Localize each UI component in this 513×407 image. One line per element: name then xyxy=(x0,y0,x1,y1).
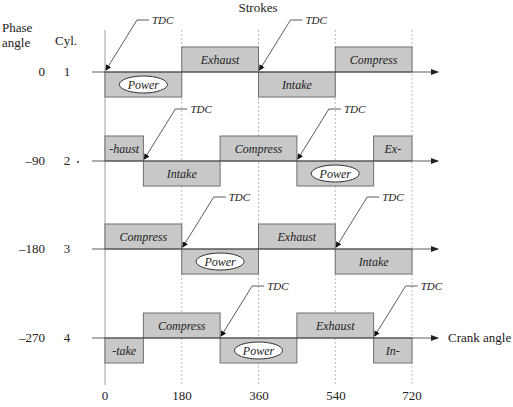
phase-angle-value: –180 xyxy=(18,241,45,256)
tdc-label: TDC xyxy=(421,280,443,292)
tdc-pointer xyxy=(144,109,187,159)
tdc-pointer xyxy=(375,286,418,336)
stroke-label: -haust xyxy=(109,142,140,156)
stroke-label: Intake xyxy=(166,167,198,181)
chart-title: Strokes xyxy=(239,0,278,15)
phase-angle-value: –90 xyxy=(25,153,46,168)
stroke-label: Power xyxy=(319,167,352,181)
stroke-label: Power xyxy=(203,255,236,269)
stroke-label: Compress xyxy=(158,319,206,333)
tdc-label: TDC xyxy=(152,14,174,26)
phase-angle-header-line1: Phase xyxy=(2,20,33,35)
four-cylinder-stroke-diagram: Strokes Phase angle Cyl. 01PowerExhaustI… xyxy=(0,0,513,407)
cylinder-number: 2 xyxy=(64,153,71,168)
cylinder-header: Cyl. xyxy=(55,33,77,48)
stroke-label: In- xyxy=(385,344,400,358)
tdc-label: TDC xyxy=(267,280,289,292)
cylinder-number: 1 xyxy=(64,64,71,79)
tdc-label: TDC xyxy=(344,103,366,115)
cylinder-row-4: –2704-takeCompressPowerExhaustIn-TDCTDC xyxy=(18,280,443,363)
dot-mark xyxy=(77,161,79,163)
stroke-label: Exhaust xyxy=(277,230,317,244)
phase-angle-header-line2: angle xyxy=(2,35,30,50)
tick-label-180: 180 xyxy=(172,388,192,403)
tdc-label: TDC xyxy=(190,103,212,115)
tick-label-0: 0 xyxy=(102,388,109,403)
cylinder-number: 3 xyxy=(64,241,71,256)
stroke-label: Intake xyxy=(358,255,390,269)
stroke-label: Compress xyxy=(350,53,398,67)
stroke-label: Power xyxy=(242,344,275,358)
tdc-pointer xyxy=(260,20,303,70)
tdc-label: TDC xyxy=(382,191,404,203)
phase-angle-value: –270 xyxy=(18,330,45,345)
stroke-label: Exhaust xyxy=(315,319,355,333)
tick-label-540: 540 xyxy=(326,388,346,403)
phase-angle-value: 0 xyxy=(39,64,46,79)
stroke-label: Compress xyxy=(235,142,283,156)
stroke-label: -take xyxy=(112,344,137,358)
tdc-pointer xyxy=(183,197,226,247)
stroke-label: Power xyxy=(127,78,160,92)
tdc-pointer xyxy=(298,109,341,159)
cylinder-row-2: –902-haustIntakeCompressPowerEx-TDCTDC xyxy=(25,103,439,186)
cylinder-rows: 01PowerExhaustIntakeCompressTDCTDC–902-h… xyxy=(18,14,443,363)
cylinder-row-3: –1803CompressPowerExhaustIntakeTDCTDC xyxy=(18,191,438,274)
cylinder-row-1: 01PowerExhaustIntakeCompressTDCTDC xyxy=(39,14,439,97)
tdc-label: TDC xyxy=(229,191,251,203)
x-axis-label: Crank angle xyxy=(448,330,511,345)
tdc-pointer xyxy=(106,20,149,70)
stroke-label: Exhaust xyxy=(200,53,240,67)
x-axis-ticks: 0 180 360 540 720 xyxy=(102,388,422,403)
stroke-label: Compress xyxy=(120,230,168,244)
tdc-pointer xyxy=(336,197,379,247)
tick-label-360: 360 xyxy=(249,388,269,403)
stroke-label: Ex- xyxy=(383,142,401,156)
tick-label-720: 720 xyxy=(402,388,422,403)
tdc-label: TDC xyxy=(306,14,328,26)
cylinder-number: 4 xyxy=(64,330,71,345)
stroke-label: Intake xyxy=(281,78,313,92)
tdc-pointer xyxy=(221,286,264,336)
